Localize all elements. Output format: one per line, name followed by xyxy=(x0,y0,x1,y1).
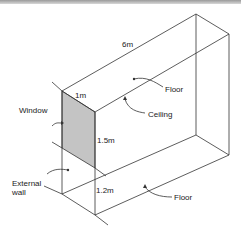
floor-label-top: Floor xyxy=(165,85,183,94)
length-label: 6m xyxy=(122,40,133,49)
window-label: Window xyxy=(19,106,47,115)
window-panel xyxy=(62,91,95,168)
top-back-edge xyxy=(62,14,196,91)
room-diagram xyxy=(0,0,241,238)
window-height-label: 1.5m xyxy=(97,136,115,145)
ceiling-label: Ceiling xyxy=(148,110,172,119)
external-wall-label-line1: External xyxy=(12,179,41,188)
external-wall-label-line2: wall xyxy=(12,188,26,197)
floor-label-bottom: Floor xyxy=(174,193,192,202)
width-label: 1m xyxy=(75,91,86,100)
sill-height-label: 1.2m xyxy=(96,186,114,195)
